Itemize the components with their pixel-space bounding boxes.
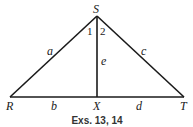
vertex-label-s: S [93,2,99,16]
angle-label-2: 2 [100,25,106,37]
vertex-label-x: X [92,99,101,113]
triangle-diagram: S 1 2 a c e R b X d T Exs. 13, 14 [0,0,193,127]
figure-caption: Exs. 13, 14 [71,115,123,126]
vertex-label-r: R [5,99,14,113]
side-label-a: a [47,44,53,58]
side-label-d: d [136,99,143,113]
triangle-lines [10,16,184,97]
side-label-c: c [141,44,147,58]
side-label-e: e [101,54,107,68]
angle-label-1: 1 [87,25,93,37]
vertex-label-t: T [180,99,188,113]
side-rs [10,16,97,97]
side-label-b: b [51,99,57,113]
